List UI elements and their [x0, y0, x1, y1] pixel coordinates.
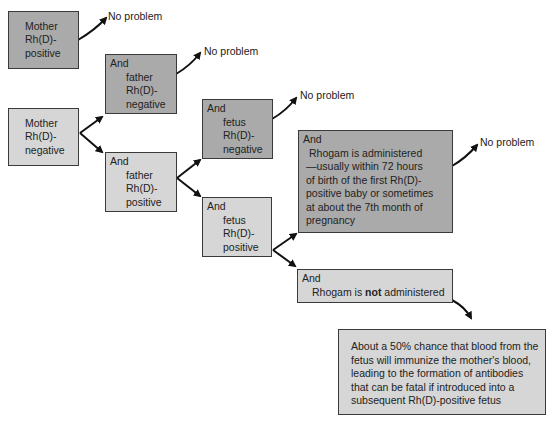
node-text: positive baby or sometimes	[303, 187, 448, 201]
outcome-no-problem: No problem	[108, 10, 162, 22]
arrow-father-positive-to-fetus-negative	[177, 160, 200, 178]
node-lead: And	[207, 200, 267, 214]
node-mother-positive: Mother Rh(D)- positive	[8, 11, 79, 69]
node-text: leading to the formation of antibodies	[351, 367, 545, 381]
node-text: Rhogam is not administered	[302, 286, 448, 300]
node-father-negative: And father Rh(D)- negative	[105, 54, 177, 114]
node-text: negative	[25, 144, 78, 158]
node-text: negative	[207, 143, 268, 157]
outcome-no-problem: No problem	[480, 136, 534, 148]
node-text: positive	[207, 241, 267, 255]
outcome-no-problem: No problem	[300, 89, 354, 101]
node-text: that can be fatal if introduced into a	[351, 381, 545, 395]
node-lead: And	[302, 272, 448, 286]
node-text: fetus	[207, 116, 268, 130]
arrow-father-negative-to-no-problem	[176, 53, 200, 74]
arrow-father-positive-to-fetus-positive	[177, 178, 200, 196]
node-text: pregnancy	[303, 214, 448, 228]
node-text: fetus	[207, 214, 267, 228]
node-text: Rh(D)-	[110, 182, 172, 196]
node-text: Rhogam is administered	[303, 147, 448, 161]
node-fetus-negative: And fetus Rh(D)- negative	[202, 99, 273, 159]
node-text: positive	[25, 47, 78, 61]
node-outcome: About a 50% chance that blood from the f…	[338, 329, 546, 415]
node-lead: And	[110, 57, 172, 71]
node-text: Mother	[25, 20, 78, 34]
node-text: subsequent Rh(D)-positive fetus	[351, 394, 545, 408]
node-text: Rh(D)-	[110, 84, 172, 98]
node-text: Rh(D)-	[207, 227, 267, 241]
node-text: Rh(D)-	[25, 130, 78, 144]
arrow-fetus-negative-to-no-problem	[272, 98, 296, 119]
node-text: fetus will immunize the mother's blood,	[351, 354, 545, 368]
node-text: father	[110, 169, 172, 183]
text-post: administered	[381, 286, 444, 298]
node-lead: And	[110, 155, 172, 169]
arrow-fetus-positive-to-rhogam	[273, 234, 296, 250]
arrow-mother-positive-to-no-problem	[78, 18, 106, 40]
arrow-fetus-positive-to-rhogam-not	[273, 250, 295, 266]
node-father-positive: And father Rh(D)- positive	[105, 152, 177, 212]
node-rhogam-not-administered: And Rhogam is not administered	[297, 269, 453, 303]
node-rhogam-administered: And Rhogam is administered —usually with…	[298, 130, 453, 233]
arrow-rhogam-not-to-outcome	[452, 300, 471, 318]
node-text: Mother	[25, 117, 78, 131]
outcome-no-problem: No problem	[204, 45, 258, 57]
text-pre: Rhogam is	[312, 286, 365, 298]
node-text: father	[110, 71, 172, 85]
node-lead: And	[207, 102, 268, 116]
text-emphasis: not	[365, 286, 381, 298]
node-mother-negative: Mother Rh(D)- negative	[8, 108, 79, 166]
node-text: of birth of the first Rh(D)-	[303, 174, 448, 188]
arrow-rhogam-to-no-problem	[452, 145, 477, 166]
node-text: positive	[110, 196, 172, 210]
node-text: negative	[110, 98, 172, 112]
node-lead: And	[303, 133, 448, 147]
node-text: About a 50% chance that blood from the	[351, 340, 545, 354]
node-text: Rh(D)-	[207, 129, 268, 143]
node-text: Rh(D)-	[25, 33, 78, 47]
node-text: —usually within 72 hours	[303, 160, 448, 174]
arrow-mother-negative-to-father-negative	[80, 117, 102, 133]
node-text: at about the 7th month of	[303, 201, 448, 215]
arrow-mother-negative-to-father-positive	[80, 133, 102, 152]
node-fetus-positive: And fetus Rh(D)- positive	[202, 197, 272, 257]
